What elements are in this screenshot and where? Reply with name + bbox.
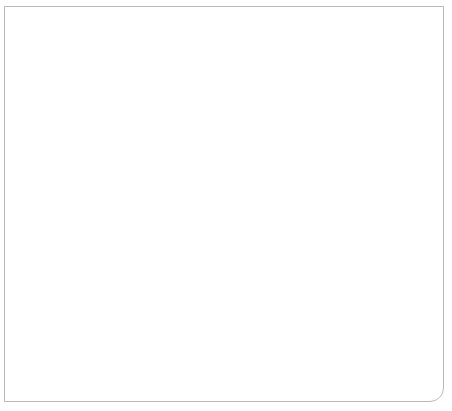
chart-figure: 0102030405060708090100 19711975197919831… (0, 0, 452, 411)
figure-frame (4, 6, 444, 402)
